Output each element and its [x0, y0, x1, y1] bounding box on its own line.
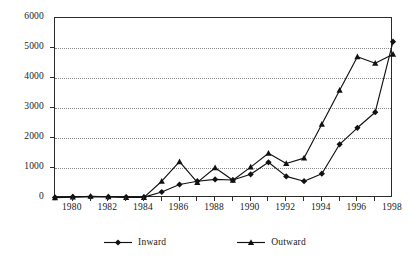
- x-tick-label: 1992: [275, 202, 295, 213]
- x-tick-label: 1984: [133, 202, 153, 213]
- data-point-marker: [319, 171, 325, 177]
- legend-item-outward: Outward: [236, 237, 306, 248]
- x-tick-mark: [196, 197, 197, 201]
- data-point-marker: [212, 164, 218, 170]
- data-point-marker: [248, 171, 254, 177]
- x-tick-mark: [374, 197, 375, 201]
- series-layer: [55, 18, 393, 198]
- x-tick-mark: [339, 197, 340, 201]
- y-axis: 0100020003000400050006000: [0, 0, 54, 214]
- x-tick-mark: [179, 197, 180, 201]
- data-point-marker: [212, 176, 218, 182]
- triangle-marker-icon: [236, 237, 266, 248]
- data-point-marker: [301, 155, 307, 161]
- x-tick-label: 1988: [204, 202, 224, 213]
- x-tick-mark: [125, 197, 126, 201]
- x-tick-label: 1990: [240, 202, 260, 213]
- x-tick-mark: [285, 197, 286, 201]
- data-point-marker: [319, 121, 325, 127]
- x-tick-mark: [250, 197, 251, 201]
- plot-area: [54, 17, 392, 197]
- y-tick-label: 6000: [24, 12, 44, 22]
- x-tick-mark: [321, 197, 322, 201]
- x-tick-mark: [90, 197, 91, 201]
- x-tick-mark: [303, 197, 304, 201]
- series-inward: [52, 39, 396, 201]
- data-point-marker: [265, 150, 271, 156]
- x-tick-label: 1982: [97, 202, 117, 213]
- data-point-marker: [337, 87, 343, 93]
- x-tick-label: 1980: [62, 202, 82, 213]
- x-tick-mark: [356, 197, 357, 201]
- x-tick-label: 1998: [382, 202, 402, 213]
- diamond-marker-icon: [103, 237, 133, 248]
- y-tick-label: 5000: [24, 42, 44, 52]
- data-point-marker: [354, 53, 360, 59]
- y-tick-label: 2000: [24, 132, 44, 142]
- x-tick-mark: [143, 197, 144, 201]
- y-tick-label: 3000: [24, 102, 44, 112]
- data-point-marker: [176, 158, 182, 164]
- x-tick-mark: [267, 197, 268, 201]
- x-tick-mark: [232, 197, 233, 201]
- x-tick-mark: [107, 197, 108, 201]
- data-point-marker: [390, 39, 396, 45]
- legend-item-inward: Inward: [103, 237, 166, 248]
- legend-label: Inward: [138, 237, 166, 247]
- y-tick-label: 4000: [24, 72, 44, 82]
- x-tick-label: 1986: [169, 202, 189, 213]
- data-point-marker: [176, 181, 182, 187]
- y-tick-label: 1000: [24, 162, 44, 172]
- series-line: [55, 54, 393, 197]
- data-point-marker: [159, 189, 165, 195]
- x-axis: 1980198219841986198819901992199419961998: [0, 202, 409, 218]
- line-chart: 0100020003000400050006000 19801982198419…: [0, 0, 409, 264]
- legend-label: Outward: [271, 237, 306, 247]
- x-tick-label: 1996: [347, 202, 367, 213]
- x-tick-mark: [214, 197, 215, 201]
- y-tick-label: 0: [39, 192, 44, 202]
- x-tick-mark: [161, 197, 162, 201]
- data-point-marker: [301, 178, 307, 184]
- x-tick-mark: [72, 197, 73, 201]
- chart-legend: InwardOutward: [0, 232, 409, 252]
- x-tick-label: 1994: [311, 202, 331, 213]
- series-outward: [52, 51, 396, 200]
